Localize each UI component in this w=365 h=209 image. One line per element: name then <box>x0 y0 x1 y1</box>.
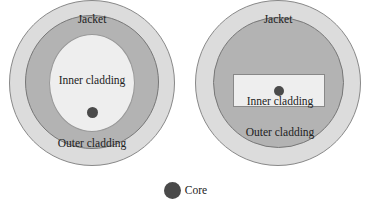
inner-cladding-label-left: Inner cladding <box>59 75 126 87</box>
inner-cladding-label-right: Inner cladding <box>247 96 314 108</box>
outer-cladding-label-right: Outer cladding <box>246 127 315 139</box>
jacket-label-right: Jacket <box>264 14 293 26</box>
outer-cladding-label-left: Outer cladding <box>58 138 127 150</box>
core-legend-label: Core <box>185 185 207 197</box>
core-legend-swatch <box>164 182 181 199</box>
jacket-label-left: Jacket <box>78 14 107 26</box>
core-left <box>87 107 98 118</box>
